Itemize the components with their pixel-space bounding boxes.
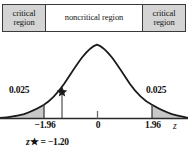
region-cell-noncritical-label: noncritical region	[65, 13, 123, 23]
normal-curve-figure: critical region noncritical region criti…	[0, 0, 188, 156]
tail-area-label-left: 0.025	[9, 85, 29, 95]
x-tick-label-negative: −1.96	[28, 120, 62, 130]
region-cell-critical-right-line2: region	[153, 18, 176, 28]
x-tick-label-zero: 0	[88, 120, 108, 130]
region-bar: critical region noncritical region criti…	[2, 4, 186, 32]
test-statistic-caption: z★ = −1.20	[26, 136, 69, 147]
normal-curve	[0, 45, 188, 118]
region-cell-critical-left-line2: region	[13, 18, 36, 28]
x-axis-label: z	[173, 121, 177, 131]
left-tail-shaded-area	[0, 105, 44, 118]
caption-star-icon: ★	[30, 137, 39, 147]
region-cell-noncritical: noncritical region	[46, 5, 142, 31]
x-tick-label-positive: 1.96	[137, 120, 169, 130]
region-cell-critical-right: critical region	[142, 5, 185, 31]
tail-area-label-right: 0.025	[146, 85, 166, 95]
caption-value: = −1.20	[38, 137, 69, 147]
region-cell-critical-left: critical region	[3, 5, 46, 31]
